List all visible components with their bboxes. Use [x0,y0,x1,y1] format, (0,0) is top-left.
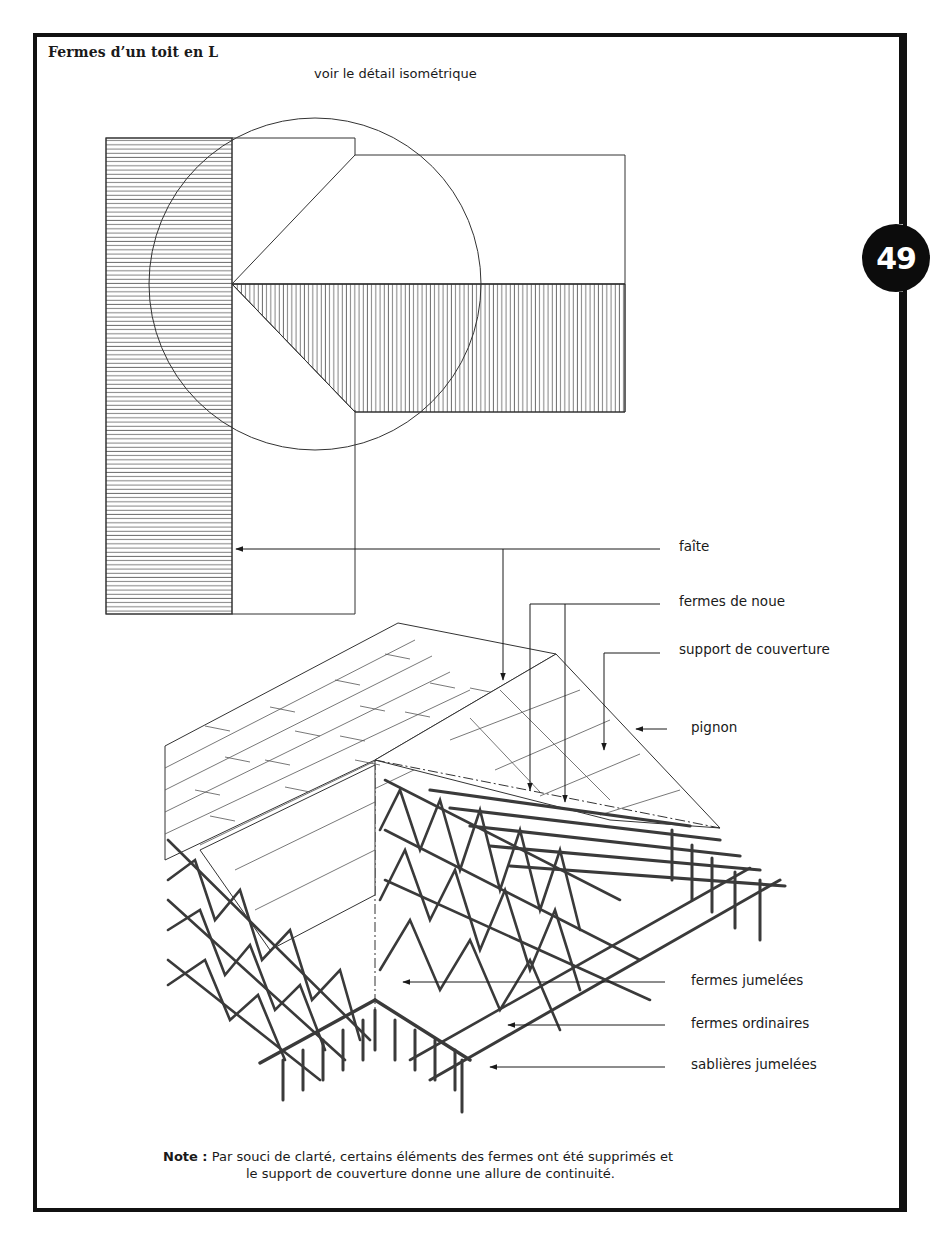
note-line-2: le support de couverture donne une allur… [163,1165,673,1182]
note-line-1: Par souci de clarté, certains éléments d… [212,1149,673,1164]
callout-sablieres-jumelees: sablières jumelées [691,1056,817,1072]
figure-note: Note : Par souci de clarté, certains élé… [163,1148,673,1182]
plan-lower-slope [232,284,625,412]
plan-left-slope [106,138,232,614]
callout-faite: faîte [679,538,709,554]
callout-support-de-couverture: support de couverture [679,641,830,657]
callout-fermes-de-noue: fermes de noue [679,593,785,609]
callout-fermes-jumelees: fermes jumelées [691,972,803,988]
plan-view [106,118,625,614]
callout-fermes-ordinaires: fermes ordinaires [691,1015,809,1031]
callout-pignon: pignon [691,719,737,735]
note-prefix: Note : [163,1149,208,1164]
